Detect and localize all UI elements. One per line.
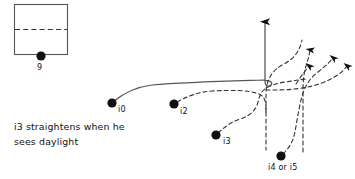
player-label-i4-or-i5: i4 or i5 <box>268 163 298 172</box>
route-i0 <box>114 22 272 101</box>
player-dot-9[interactable] <box>36 51 45 60</box>
play-diagram-svg: 9 i0 i2 i3 i4 or i5 <box>0 0 355 179</box>
player-dot-i3[interactable] <box>211 130 220 139</box>
play-diagram-canvas: 9 i0 i2 i3 i4 or i5 i3 straightens when … <box>0 0 355 179</box>
route-riser-vertical <box>303 50 310 152</box>
player-label-i0: i0 <box>118 105 126 114</box>
route-i2 <box>177 90 266 150</box>
player-label-9: 9 <box>37 63 42 72</box>
player-dot-i0[interactable] <box>107 98 116 107</box>
route-i3 <box>218 79 306 133</box>
player-label-i3: i3 <box>223 137 231 146</box>
route-i4-or-i5 <box>283 58 333 154</box>
player-dot-i4-or-i5[interactable] <box>276 151 285 160</box>
play-note: i3 straightens when he sees daylight <box>14 119 184 149</box>
player-dot-i2[interactable] <box>169 99 178 108</box>
route-i2-arrow-branch <box>266 40 302 112</box>
route-diagonal-arrow <box>296 66 309 84</box>
player-label-i2: i2 <box>180 107 188 116</box>
